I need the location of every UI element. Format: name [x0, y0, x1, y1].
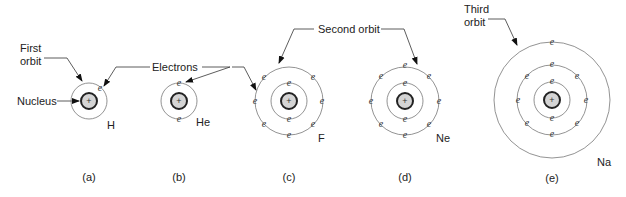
panel-label: (c) [283, 171, 296, 183]
electron: e [575, 117, 580, 128]
element-label: Na [597, 156, 612, 168]
electron: e [253, 95, 258, 106]
electron: e [98, 82, 103, 93]
electron: e [311, 118, 316, 129]
electron: e [379, 118, 384, 129]
atom-fluorine: + e e e e e e e e e F (c) [253, 67, 325, 183]
second-orbit-leader-f [279, 29, 314, 63]
electron: e [516, 94, 521, 105]
atom-neon: + e e e e e e e e e e Ne (d) [369, 59, 450, 183]
electron: e [287, 129, 292, 140]
element-label: F [318, 132, 325, 144]
panel-label: (d) [398, 171, 411, 183]
atom-helium: + e e He (b) [161, 77, 210, 183]
second-orbit-leader-ne [381, 29, 417, 64]
first-orbit-label-line2: orbit [20, 55, 41, 67]
element-label: H [107, 119, 115, 131]
electron: e [550, 112, 555, 123]
electron: e [177, 113, 182, 124]
electron: e [575, 70, 580, 81]
electron: e [584, 94, 589, 105]
atom-hydrogen: + e H (a) [71, 82, 115, 183]
electron: e [437, 95, 442, 106]
nucleus-label: Nucleus [17, 95, 57, 107]
nucleus-plus: + [402, 96, 407, 106]
electron: e [525, 70, 530, 81]
electron: e [262, 118, 267, 129]
atomic-structure-diagram: First orbit Nucleus Electrons Second orb… [0, 0, 626, 197]
electron: e [287, 77, 292, 88]
electron: e [311, 71, 316, 82]
panel-label: (e) [545, 172, 558, 184]
element-label: Ne [436, 132, 450, 144]
third-orbit-label-line1: Third [464, 3, 489, 15]
electron: e [403, 59, 408, 70]
first-orbit-leader [44, 58, 82, 81]
electron: e [403, 113, 408, 124]
electron: e [550, 75, 555, 86]
electron: e [550, 36, 555, 47]
electron: e [320, 95, 325, 106]
electron: e [427, 70, 432, 81]
element-label: He [196, 116, 210, 128]
electron: e [379, 70, 384, 81]
nucleus-plus: + [86, 96, 91, 106]
panel-label: (b) [172, 171, 185, 183]
panel-label: (a) [82, 171, 95, 183]
electron: e [369, 95, 374, 106]
nucleus-plus: + [176, 96, 181, 106]
electron: e [403, 129, 408, 140]
electron: e [403, 77, 408, 88]
second-orbit-label: Second orbit [318, 23, 380, 35]
electron: e [525, 117, 530, 128]
electrons-leader-h [104, 67, 150, 86]
third-orbit-label-line2: orbit [464, 16, 485, 28]
electron: e [550, 128, 555, 139]
electron: e [550, 58, 555, 69]
electron: e [177, 77, 182, 88]
electrons-label: Electrons [152, 61, 198, 73]
electron: e [262, 71, 267, 82]
third-orbit-leader [488, 19, 517, 45]
electron: e [427, 118, 432, 129]
electrons-leader-f [232, 67, 256, 90]
nucleus-plus: + [286, 96, 291, 106]
electron: e [287, 113, 292, 124]
atom-sodium: + e e e e e e e e e e e Na (e) [494, 36, 612, 184]
nucleus-plus: + [549, 95, 554, 105]
first-orbit-label-line1: First [20, 42, 41, 54]
